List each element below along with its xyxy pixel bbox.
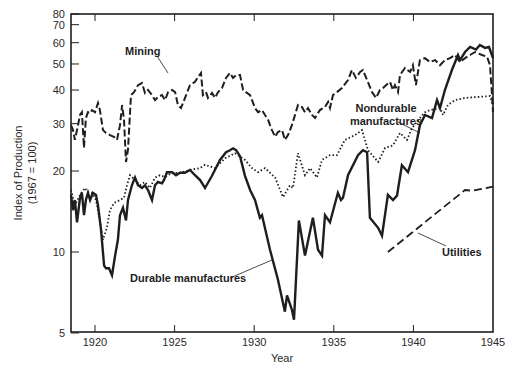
y-tick-label: 60 — [53, 37, 65, 49]
x-axis-title: Year — [271, 352, 294, 364]
y-axis-title: Index of Production (1967 = 100) — [12, 126, 38, 221]
x-tick-label: 1920 — [83, 336, 107, 348]
y-axis-ticks: 51020304050607080 — [53, 8, 79, 339]
utilities-leader-line — [418, 233, 446, 246]
y-tick-label: 80 — [53, 8, 65, 20]
x-tick-label: 1935 — [322, 336, 346, 348]
utilities-series-line — [388, 187, 493, 252]
nondurable-label-line1: Nondurable — [355, 102, 416, 114]
y-tick-label: 70 — [53, 19, 65, 31]
durable-label: Durable manufactures — [130, 272, 246, 284]
nondurable-label-line2: manufactures — [350, 115, 422, 127]
plot-frame — [71, 14, 493, 332]
y-tick-label: 40 — [53, 84, 65, 96]
y-tick-label: 50 — [53, 58, 65, 70]
utilities-label: Utilities — [442, 246, 482, 258]
mining-series-line — [71, 52, 493, 162]
y-tick-label: 30 — [53, 118, 65, 130]
x-tick-label: 1940 — [401, 336, 425, 348]
mining-leader-line — [157, 56, 168, 73]
x-tick-label: 1945 — [481, 336, 505, 348]
y-tick-label: 5 — [59, 327, 65, 339]
y-axis-title-line2: (1967 = 100) — [26, 142, 38, 205]
y-tick-label: 10 — [53, 246, 65, 258]
x-tick-label: 1925 — [162, 336, 186, 348]
mining-label: Mining — [125, 45, 160, 57]
y-tick-label: 20 — [53, 165, 65, 177]
production-index-chart: 51020304050607080 1920192519301935194019… — [0, 0, 515, 372]
y-axis-title-line1: Index of Production — [12, 126, 24, 221]
x-tick-label: 1930 — [242, 336, 266, 348]
durable-leader-line — [230, 260, 272, 278]
